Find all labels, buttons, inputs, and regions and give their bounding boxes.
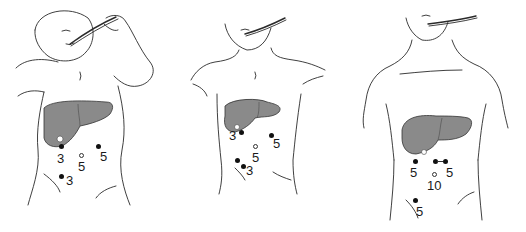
port-label: 5 xyxy=(416,205,423,218)
port-marker-5mm xyxy=(443,159,448,164)
port-marker-3mm xyxy=(59,144,64,149)
infant-figure xyxy=(0,0,175,232)
child-figure xyxy=(175,0,350,232)
port-label: 3 xyxy=(246,164,253,177)
port-label: 10 xyxy=(427,179,441,192)
port-label: 5 xyxy=(78,160,85,173)
port-label: 3 xyxy=(57,152,64,165)
port-label: 3 xyxy=(229,129,236,142)
port-label: 5 xyxy=(100,150,107,163)
port-marker-5mm xyxy=(413,198,418,203)
adolescent-figure xyxy=(350,0,525,232)
port-label: 5 xyxy=(252,151,259,164)
port-marker-3mm xyxy=(59,174,64,179)
infant-body-outline xyxy=(0,0,175,232)
port-label: 5 xyxy=(273,137,280,150)
port-marker-camera-10mm xyxy=(432,172,437,177)
port-label: 5 xyxy=(410,166,417,179)
child-body-outline xyxy=(175,0,350,232)
port-marker-camera-5mm xyxy=(253,144,258,149)
port-marker-3mm xyxy=(235,158,240,163)
liver-icon xyxy=(402,116,472,155)
port-label: 5 xyxy=(446,166,453,179)
port-label: 3 xyxy=(66,174,73,187)
port-marker-camera-5mm xyxy=(79,153,84,158)
port-marker-5mm xyxy=(413,159,418,164)
port-marker-3mm xyxy=(239,130,244,135)
adolescent-body-outline xyxy=(350,0,526,232)
liver-icon xyxy=(44,101,113,147)
